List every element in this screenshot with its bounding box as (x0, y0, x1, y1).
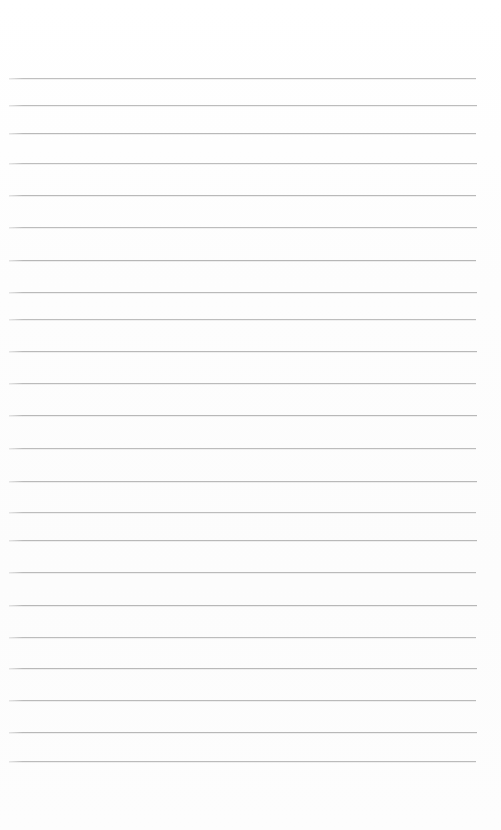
rule-line (9, 481, 477, 482)
rule-line-group (0, 0, 501, 830)
rule-line (9, 637, 476, 638)
rule-line (9, 383, 476, 384)
rule-line (9, 133, 476, 134)
rule-line (9, 227, 477, 228)
ruled-paper-page (0, 0, 501, 830)
rule-line (9, 512, 476, 513)
rule-line (9, 700, 476, 701)
rule-line (9, 105, 477, 106)
rule-line (9, 195, 476, 196)
rule-line (9, 572, 476, 573)
rule-line (9, 78, 476, 79)
rule-line (9, 668, 477, 669)
rule-line (9, 448, 476, 449)
rule-line (9, 605, 477, 606)
rule-line (9, 260, 476, 261)
rule-line (9, 732, 477, 733)
rule-line (9, 540, 477, 541)
rule-line (9, 292, 477, 293)
rule-line (9, 351, 477, 352)
rule-line (9, 761, 476, 762)
rule-line (9, 163, 477, 164)
rule-line (9, 319, 476, 320)
rule-line (9, 415, 477, 416)
